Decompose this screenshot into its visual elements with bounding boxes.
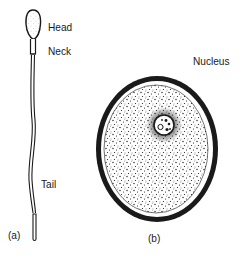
label-neck: Neck [48, 45, 71, 57]
label-nucleus: Nucleus [193, 55, 230, 67]
diagram-canvas: Head Neck Tail (a) Nucleus (b) [0, 0, 242, 259]
label-head: Head [48, 21, 72, 33]
caption-a: (a) [8, 229, 20, 241]
sperm-cell [26, 10, 41, 241]
egg-cell [96, 76, 218, 222]
egg-nucleus [154, 115, 174, 135]
caption-b: (b) [148, 232, 160, 244]
sperm-neck [31, 39, 36, 54]
sperm-end-piece [33, 214, 36, 241]
sperm-head [26, 10, 41, 40]
egg-cytoplasm [104, 85, 208, 213]
cell-illustration [0, 0, 242, 259]
label-tail: Tail [41, 178, 56, 190]
